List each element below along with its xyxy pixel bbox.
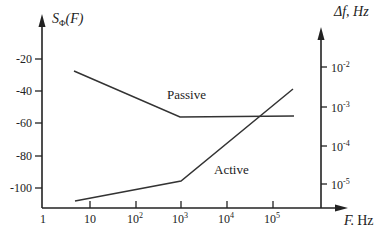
y-tick-label: -80 [16,149,32,163]
y-tick-label: -20 [16,52,32,66]
x-tick-label: 102 [127,211,143,226]
right-y-tick-labels: 10-2 10-3 10-4 10-5 [331,60,350,192]
right-y-tick-label: 10-4 [331,139,350,154]
series-passive-label: Passive [167,87,206,102]
x-tick-label: 105 [264,211,280,226]
series-active-label: Active [214,162,249,177]
left-y-axis-title: SΦ(F) [52,11,84,28]
y-tick-label: -100 [10,181,32,195]
y-tick-label: -40 [16,84,32,98]
x-tick-label: 103 [172,211,188,226]
x-tick-label: 10 [84,212,96,226]
right-y-tick-label: 10-2 [331,60,350,75]
x-tick-label: 104 [218,211,234,226]
x-ticks [90,201,273,208]
right-y-tick-label: 10-5 [331,177,350,192]
left-y-tick-labels: -20 -40 -60 -80 -100 [10,52,32,195]
y-tick-label: -60 [16,116,32,130]
right-y-axis-arrow-icon [318,27,325,40]
x-tick-labels: 1 10 102 103 104 105 [40,211,280,226]
right-y-tick-label: 10-3 [331,100,350,115]
chart: -20 -40 -60 -80 -100 1 10 102 103 104 10… [0,0,388,231]
right-y-ticks [321,67,327,184]
left-y-ticks [35,59,42,188]
left-y-axis-arrow-icon [39,14,46,27]
right-y-axis-title: Δf, Hz [333,4,369,19]
x-tick-label: 1 [40,212,46,226]
x-axis-arrow-icon [335,205,348,212]
x-axis-title: F.Hz [343,213,374,228]
series-active-line [75,89,293,201]
